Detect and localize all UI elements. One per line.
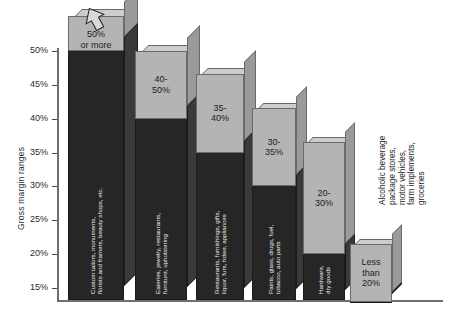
y-tick-label: 30% <box>14 180 48 190</box>
bar-side-cap <box>392 224 402 292</box>
y-tick-mark <box>52 254 57 255</box>
gross-margin-bar-chart: Gross margin ranges 50%45%40%35%30%25%20… <box>0 0 450 313</box>
outer-category-note: Alcoholic beverage package stores, motor… <box>378 133 427 205</box>
y-axis-line <box>57 48 59 302</box>
y-tick-label: 35% <box>14 147 48 157</box>
bar-range-label: 50% or more <box>68 29 124 50</box>
y-tick-label: 40% <box>14 113 48 123</box>
up-arrow-icon <box>82 6 108 32</box>
bar-range-label: 20- 30% <box>303 188 345 209</box>
bar-category-label: Custom tailors, monuments, florists and … <box>89 55 104 294</box>
y-tick-label: 15% <box>14 282 48 292</box>
y-tick-label: 20% <box>14 248 48 258</box>
bar-range-label: 40- 50% <box>135 74 187 95</box>
y-tick-mark <box>52 288 57 289</box>
bar[interactable]: 20- 30%Hardware, dry goods <box>303 0 345 313</box>
bar[interactable]: 35- 40%Restaurants, furnishings, gifts, … <box>196 0 244 313</box>
bar-category-label: Eateries, jewelry, restaurants, furnitur… <box>154 123 169 294</box>
y-tick-mark <box>52 186 57 187</box>
bar-body <box>350 302 392 303</box>
y-tick-mark <box>52 85 57 86</box>
y-tick-label: 25% <box>14 214 48 224</box>
y-tick-mark <box>52 51 57 52</box>
bar-category-label: Restaurants, furnishings, gifts, liquor,… <box>213 157 228 294</box>
bar[interactable]: 30- 35%Paints, glass, drugs, fuel, tobac… <box>252 0 296 313</box>
y-tick-mark <box>52 153 57 154</box>
bar-range-label: 35- 40% <box>196 103 244 124</box>
bar[interactable]: 40- 50%Eateries, jewelry, restaurants, f… <box>135 0 187 313</box>
y-tick-label: 45% <box>14 79 48 89</box>
y-tick-mark <box>52 119 57 120</box>
y-tick-label: 50% <box>14 45 48 55</box>
bar[interactable]: 50% or moreCustom tailors, monuments, fl… <box>68 0 124 313</box>
bar-range-label: Less than 20% <box>350 257 392 289</box>
bar-range-label: 30- 35% <box>252 137 296 158</box>
bar-category-label: Paints, glass, drugs, fuel, tobacco, aut… <box>267 190 282 294</box>
y-tick-mark <box>52 220 57 221</box>
bar-category-label: Hardware, dry goods <box>317 258 332 294</box>
